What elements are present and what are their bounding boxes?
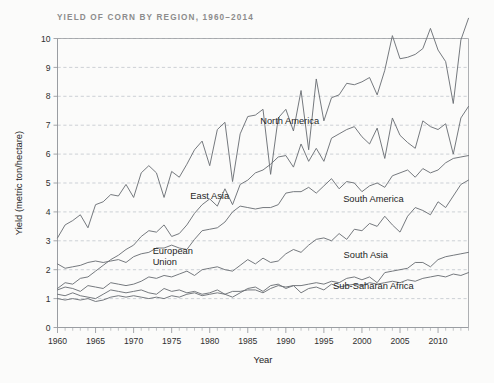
y-axis-tick-label: 1 <box>46 294 51 304</box>
y-axis-tick-label: 0 <box>46 323 51 333</box>
series-label-east-asia: East Asia <box>190 191 230 201</box>
series-line-european-union <box>58 106 469 288</box>
y-axis-tick-label: 10 <box>41 34 51 44</box>
series-label-south-america: South America <box>343 194 404 204</box>
series-label-european-union-line2: Union <box>153 257 177 267</box>
y-axis-title: Yield (metric ton/hectare) <box>13 131 24 235</box>
series-label-sub-saharan-africa: Sub-Saharan Africa <box>333 281 414 291</box>
x-axis-tick-label: 2010 <box>428 336 447 346</box>
y-axis-tick-label: 8 <box>46 91 51 101</box>
x-axis-tick-label: 2005 <box>390 336 409 346</box>
series-label-south-asia: South Asia <box>344 250 389 260</box>
x-axis-tick-label: 1990 <box>276 336 295 346</box>
y-axis-tick-label: 6 <box>46 149 51 159</box>
y-axis-tick-label: 3 <box>46 236 51 246</box>
chart-figure: YIELD OF CORN BY REGION, 1960–2014 01234… <box>0 0 494 383</box>
series-line-south-america <box>58 180 469 291</box>
x-axis-tick-label: 1995 <box>314 336 333 346</box>
x-axis-tick-label: 1965 <box>86 336 105 346</box>
x-axis-tick-label: 1985 <box>238 336 257 346</box>
series-label-north-america: North America <box>260 116 320 126</box>
x-axis-tick-label: 1970 <box>124 336 143 346</box>
line-chart-plot: 0123456789101960196519701975198019851990… <box>0 0 494 383</box>
series-line-north-america <box>58 18 469 238</box>
y-axis-tick-label: 7 <box>46 120 51 130</box>
y-axis-tick-label: 9 <box>46 63 51 73</box>
x-axis-tick-label: 1975 <box>162 336 181 346</box>
y-axis-tick-label: 4 <box>46 207 51 217</box>
x-axis-title: Year <box>254 354 273 365</box>
y-axis-tick-label: 5 <box>46 178 51 188</box>
series-label-european-union-line1: European <box>153 246 193 256</box>
x-axis-tick-label: 1980 <box>200 336 219 346</box>
y-axis-tick-label: 2 <box>46 265 51 275</box>
x-axis-tick-label: 1960 <box>48 336 67 346</box>
x-axis-tick-label: 2000 <box>352 336 371 346</box>
